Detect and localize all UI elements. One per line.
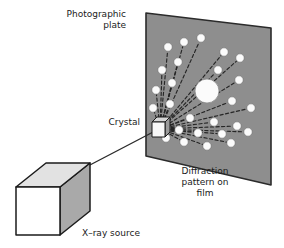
diffraction-spot [247, 104, 255, 112]
xray-diffraction-diagram: Photographic plate Crystal Diffraction p… [0, 0, 284, 248]
diffraction-spot [180, 38, 188, 46]
direct-beam-spot [195, 79, 219, 103]
label-xray-source: X–ray source [82, 228, 172, 239]
diffraction-spot [233, 122, 241, 130]
diffraction-spot [227, 139, 235, 147]
diffraction-spot [197, 34, 205, 42]
diffraction-spot [244, 128, 252, 136]
diffraction-spot [180, 138, 188, 146]
diffraction-spot [235, 76, 243, 84]
xray-source-cube [16, 163, 90, 235]
diffraction-spot [220, 48, 228, 56]
diffraction-spot [174, 58, 182, 66]
diffraction-spot [164, 43, 172, 51]
diffraction-spot [175, 126, 183, 134]
label-crystal: Crystal [84, 117, 140, 128]
diffraction-spot [228, 97, 236, 105]
diffraction-spot [194, 129, 202, 137]
diffraction-spot [166, 100, 174, 108]
crystal-cube [152, 117, 170, 137]
label-diffraction-pattern: Diffraction pattern on film [168, 166, 242, 199]
label-photographic-plate: Photographic plate [44, 9, 126, 31]
diagram-canvas [0, 0, 284, 248]
diffraction-spot [236, 54, 244, 62]
diffraction-spot [152, 86, 160, 94]
diffraction-spot [149, 104, 157, 112]
diffraction-spot [186, 114, 194, 122]
diffraction-spot [218, 130, 226, 138]
diffraction-spot [203, 142, 211, 150]
diffraction-spot [210, 118, 218, 126]
diffraction-spot [168, 79, 176, 87]
diffraction-spot [158, 66, 166, 74]
diffraction-spot [214, 66, 222, 74]
